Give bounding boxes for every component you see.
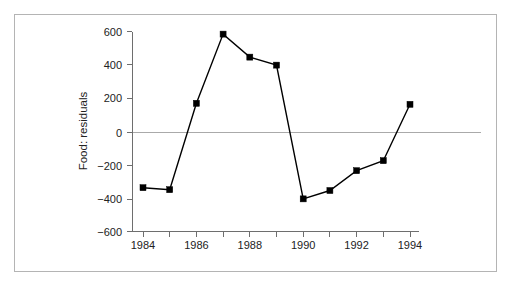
x-tick-label-1994: 1994 xyxy=(398,239,422,251)
y-tick-label-400: 400 xyxy=(104,59,122,71)
y-tick-label-minus200: −200 xyxy=(97,160,122,172)
x-tick-label-1988: 1988 xyxy=(238,239,262,251)
data-point-1986 xyxy=(193,100,199,106)
data-point-1984 xyxy=(140,185,146,191)
y-tick-label-minus600: −600 xyxy=(97,226,122,238)
data-point-1993 xyxy=(380,158,386,164)
residuals-line-chart: 600 400 200 0 −200 −400 −600 Food: resid… xyxy=(15,15,496,271)
y-axis-ticks xyxy=(127,32,132,232)
data-point-1990 xyxy=(300,196,306,202)
y-tick-label-minus400: −400 xyxy=(97,193,122,205)
y-tick-label-200: 200 xyxy=(104,92,122,104)
y-tick-label-0: 0 xyxy=(116,127,122,139)
series-markers xyxy=(140,31,413,202)
y-axis-title: Food: residuals xyxy=(77,91,89,170)
series-line-food-residuals xyxy=(143,34,410,199)
data-point-1992 xyxy=(354,168,360,174)
data-point-1991 xyxy=(327,188,333,194)
x-tick-label-1990: 1990 xyxy=(291,239,315,251)
figure-frame: 600 400 200 0 −200 −400 −600 Food: resid… xyxy=(14,14,497,272)
data-point-1989 xyxy=(274,62,280,68)
data-point-1988 xyxy=(247,54,253,60)
data-point-1985 xyxy=(167,187,173,193)
y-tick-label-600: 600 xyxy=(104,26,122,38)
x-tick-label-1984: 1984 xyxy=(131,239,155,251)
data-point-1994 xyxy=(407,101,413,107)
x-tick-label-1986: 1986 xyxy=(184,239,208,251)
x-axis-ticks xyxy=(143,232,410,237)
x-tick-label-1992: 1992 xyxy=(344,239,368,251)
data-point-1987 xyxy=(220,31,226,37)
figure-root: 600 400 200 0 −200 −400 −600 Food: resid… xyxy=(0,0,511,286)
